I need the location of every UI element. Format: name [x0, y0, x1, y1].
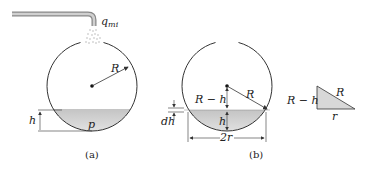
tank-diagram: qmi R h p (a) R R − h h — [0, 0, 370, 178]
triangle-hypotenuse-label: R — [335, 86, 344, 99]
triangle-diagram: R − h R r — [286, 86, 355, 123]
spray-icon — [85, 29, 100, 43]
inlet-pipe — [12, 14, 94, 26]
figure-a: qmi R h p (a) — [12, 14, 150, 160]
height-label: h — [29, 114, 36, 127]
dh-label: dh — [161, 115, 175, 128]
radius-label: R — [110, 62, 119, 75]
pressure-label: p — [88, 118, 95, 131]
flow-rate-label: qmi — [101, 15, 119, 29]
triangle-vertical-label: R − h — [286, 94, 319, 107]
figure-b: R R − h h dh 2r (b) — [161, 43, 285, 161]
width-label: 2r — [219, 131, 233, 144]
height-label: h — [219, 115, 226, 128]
triangle-base-label: r — [332, 110, 338, 123]
radius-arrow — [92, 67, 128, 86]
radius-label: R — [245, 88, 254, 101]
r-minus-h-label: R − h — [194, 93, 227, 106]
caption-a: (a) — [85, 149, 99, 160]
caption-b: (b) — [249, 149, 263, 160]
